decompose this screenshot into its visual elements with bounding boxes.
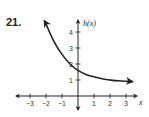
x-tick-label: 2 [108, 100, 112, 107]
x-tick-label: −1 [58, 100, 66, 107]
x-tick-label: −2 [42, 100, 50, 107]
y-tick-label: 4 [69, 29, 73, 36]
x-tick-label: 3 [124, 100, 128, 107]
x-tick-label: 1 [92, 100, 96, 107]
x-tick-label: −3 [26, 100, 34, 107]
ticks: −3−2−11231234 [26, 29, 128, 108]
exponential-graph: xh(x) −3−2−11231234 [0, 0, 149, 117]
axes: xh(x) [16, 19, 143, 110]
y-tick-label: 1 [69, 77, 73, 84]
y-axis-label: h(x) [83, 19, 96, 28]
y-tick-label: 3 [69, 45, 73, 52]
x-axis-label: x [138, 98, 143, 107]
function-curve [44, 21, 132, 82]
